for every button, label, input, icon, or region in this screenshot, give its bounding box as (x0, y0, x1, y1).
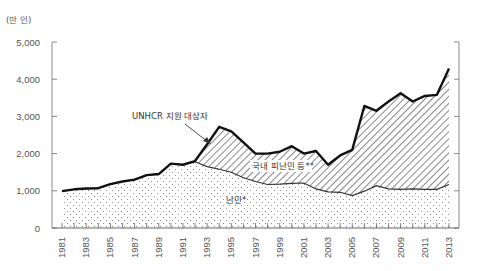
x-tick-label: 2009 (395, 237, 406, 258)
x-tick-label: 1989 (153, 237, 164, 258)
y-tick-label: 3,000 (16, 111, 40, 122)
x-tick-label: 2003 (322, 237, 333, 258)
x-tick-label: 1987 (129, 237, 140, 258)
x-tick-label: 1985 (104, 237, 115, 258)
refugee-area-chart: (만 인) 01,0002,0003,0004,0005,000 1981198… (0, 0, 477, 271)
x-tick-label: 1995 (225, 237, 236, 258)
y-tick-label: 2,000 (16, 148, 40, 159)
annotation-idp: 국내 피난민 등** (250, 160, 314, 172)
annotation-refugee: 난민* (226, 195, 246, 205)
x-tick-label: 2011 (419, 238, 430, 258)
idp-hatched-area (62, 68, 449, 195)
x-tick-label: 2005 (346, 237, 357, 258)
y-unit-label: (만 인) (6, 15, 31, 25)
y-tick-label: 4,000 (16, 74, 40, 85)
x-tick-label: 1983 (80, 237, 91, 258)
annotation-refugee-label: 난민* (226, 195, 246, 205)
x-tick-label: 1991 (177, 237, 188, 258)
x-tick-label: 1999 (274, 237, 285, 258)
annotation-unhcr: UNHCR 지원 대상자 (132, 111, 211, 144)
y-tick-label: 1,000 (16, 185, 40, 196)
x-tick-label: 2013 (443, 237, 454, 258)
x-tick-label: 2001 (298, 237, 309, 258)
annotation-unhcr-label: UNHCR 지원 대상자 (132, 111, 208, 121)
x-tick-label: 1993 (201, 237, 212, 258)
x-tick-label: 2007 (370, 237, 381, 258)
plot-areas (62, 68, 449, 228)
y-tick-label: 0 (35, 223, 40, 234)
y-tick-label: 5,000 (16, 37, 40, 48)
x-tick-label: 1981 (56, 237, 67, 258)
annotation-idp-label: 국내 피난민 등** (252, 161, 314, 171)
annotation-arrow-line (185, 124, 208, 142)
x-tick-label: 1997 (250, 237, 261, 258)
